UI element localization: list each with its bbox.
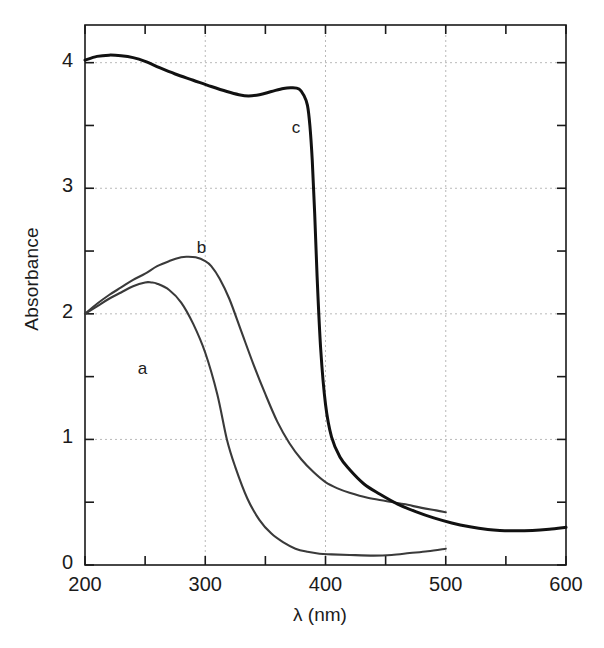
curve-b [85,257,446,513]
curve-label-a: a [138,359,147,379]
gridlines [85,25,566,565]
x-tick-label-600: 600 [531,573,601,596]
y-tick-label-1: 1 [37,425,73,448]
x-axis-title: λ (nm) [200,604,440,626]
absorbance-spectrum-figure: Absorbance λ (nm) 01234 200300400500600 … [0,0,604,648]
x-tick-label-200: 200 [50,573,120,596]
x-tick-label-500: 500 [411,573,481,596]
curve-a [85,282,446,555]
curve-label-c: c [292,118,301,138]
curve-label-b: b [197,238,206,258]
y-tick-label-0: 0 [37,551,73,574]
x-tick-label-300: 300 [170,573,240,596]
plot-area [0,0,604,648]
y-axis-title: Absorbance [21,199,43,359]
y-tick-label-2: 2 [37,300,73,323]
y-tick-label-4: 4 [37,49,73,72]
y-tick-label-3: 3 [37,174,73,197]
x-tick-label-400: 400 [291,573,361,596]
